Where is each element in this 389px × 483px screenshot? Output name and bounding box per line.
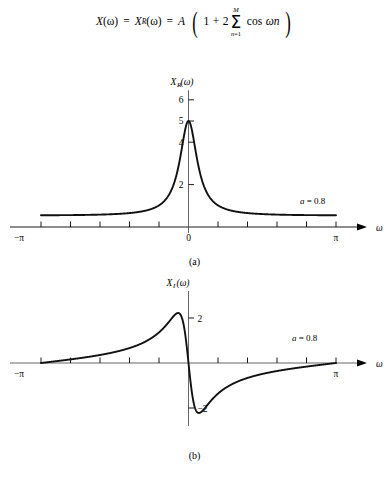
x-tick-label-pi: π <box>334 369 339 379</box>
y-axis-title: XI(ω) <box>166 278 190 290</box>
equation-eq1: = <box>123 16 130 28</box>
equation-close-paren: ) <box>285 11 291 33</box>
x-axis-title: ω <box>376 359 383 369</box>
equation-lhs1-arg: (ω) <box>103 16 118 28</box>
y-axis-title: XR(ω) <box>170 77 194 89</box>
svg-text:(ω): (ω) <box>177 278 190 289</box>
equation-amplitude: A <box>178 16 185 28</box>
y-tick-label-5: 5 <box>179 116 184 126</box>
equation-two: 2 <box>223 16 229 28</box>
summation-lower-eq: =1 <box>234 30 241 37</box>
equation-open-paren: ( <box>192 11 198 33</box>
equation-lhs2-arg: (ω) <box>146 16 161 28</box>
equation-formula: X(ω) = XR(ω) = A ( 1 + 2 M Σ n=1 cos ωn … <box>96 7 293 37</box>
equation-lhs2: X <box>135 16 142 28</box>
x-axis-title: ω <box>376 223 383 233</box>
plot-real-part: −π0π2456XR(ω)ωa = 0.8 <box>0 44 389 256</box>
plot-imaginary-part: −ππ2−2XI(ω)ωa = 0.8 <box>0 274 389 450</box>
summation-group: M Σ n=1 <box>231 7 242 37</box>
parameter-annotation: a = 0.8 <box>300 196 326 206</box>
x-tick-label-pi: π <box>334 233 339 243</box>
svg-text:(ω): (ω) <box>181 77 194 88</box>
equation-cos: cos <box>247 16 262 28</box>
figure-b: −ππ2−2XI(ω)ωa = 0.8 (b) <box>0 274 389 483</box>
equation-one: 1 <box>204 16 210 28</box>
y-tick-label-2: 2 <box>179 180 184 190</box>
figure-b-caption: (b) <box>0 450 389 461</box>
y-tick-label-6: 6 <box>179 95 184 105</box>
x-tick-label-neg-pi: −π <box>14 233 24 243</box>
parameter-annotation: a = 0.8 <box>292 333 318 343</box>
equation-cos-arg: ωn <box>266 16 280 28</box>
svg-text:I: I <box>172 282 176 290</box>
x-tick-label-neg-pi: −π <box>14 369 24 379</box>
x-axis-arrow-icon <box>357 224 367 231</box>
equation-eq2: = <box>167 16 174 28</box>
x-tick-label-zero: 0 <box>186 233 191 243</box>
y-tick-label-pos2: 2 <box>198 314 203 324</box>
figure-a: −π0π2456XR(ω)ωa = 0.8 (a) <box>0 44 389 274</box>
summation-lower-limit: n=1 <box>231 31 241 38</box>
figure-a-caption: (a) <box>0 256 389 267</box>
equation-block: X(ω) = XR(ω) = A ( 1 + 2 M Σ n=1 cos ωn … <box>0 0 389 44</box>
sigma-icon: Σ <box>231 14 242 31</box>
equation-lhs1: X <box>96 16 103 28</box>
x-axis-arrow-icon <box>357 360 367 367</box>
equation-plus: + <box>213 16 220 28</box>
